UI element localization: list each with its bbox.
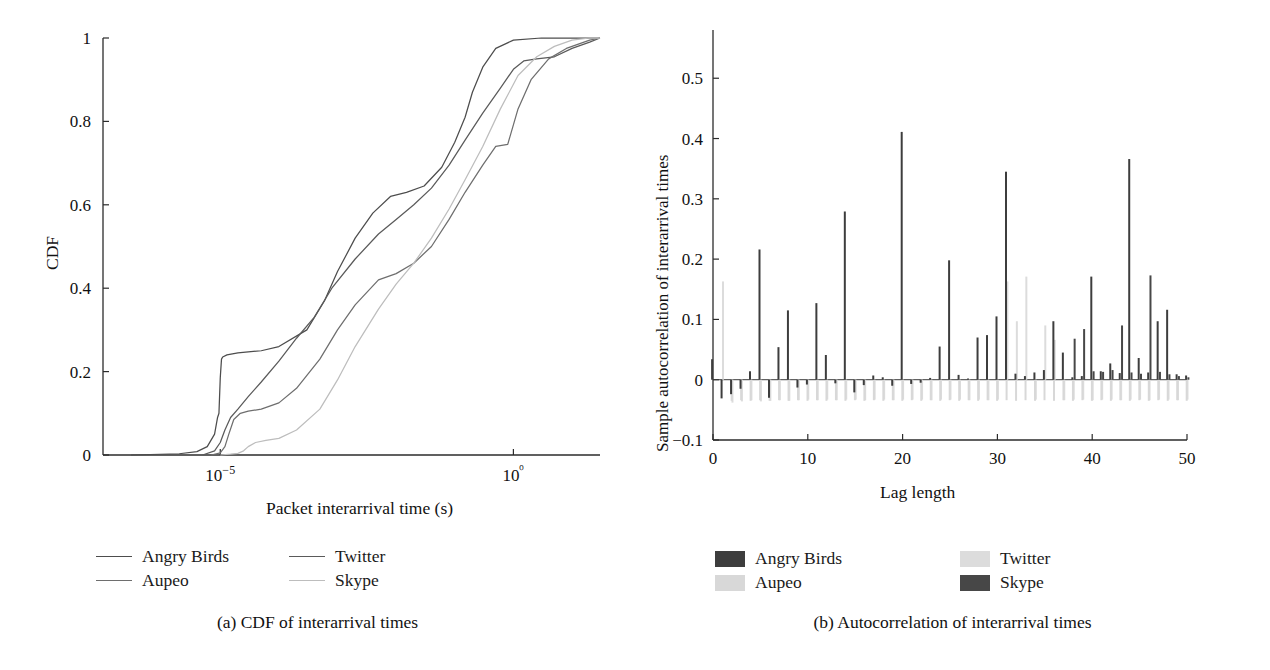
cdf-plot: 00.20.40.60.8110−510⁰ bbox=[0, 0, 635, 500]
acf-legend: Angry Birds Twitter Aupeo Skype bbox=[715, 548, 1050, 593]
legend-entry-angry-birds: Angry Birds bbox=[715, 548, 842, 569]
cdf-x-axis-title: Packet interarrival time (s) bbox=[266, 498, 453, 519]
caption-panel-b: (b) Autocorrelation of interarrival time… bbox=[635, 612, 1270, 633]
legend-label-angry-birds: Angry Birds bbox=[142, 546, 229, 567]
svg-text:10⁰: 10⁰ bbox=[502, 463, 524, 485]
legend-entry-aupeo: Aupeo bbox=[96, 570, 229, 591]
legend-label-aupeo: Aupeo bbox=[755, 572, 802, 593]
svg-text:20: 20 bbox=[894, 449, 911, 468]
svg-text:0.2: 0.2 bbox=[70, 363, 91, 382]
svg-text:0.6: 0.6 bbox=[70, 196, 91, 215]
legend-entry-skype: Skype bbox=[960, 572, 1050, 593]
svg-text:50: 50 bbox=[1179, 449, 1196, 468]
acf-plot: −0.100.10.20.30.40.501020304050 bbox=[635, 0, 1270, 500]
svg-text:0: 0 bbox=[709, 449, 718, 468]
legend-entry-aupeo: Aupeo bbox=[715, 572, 842, 593]
svg-text:0.5: 0.5 bbox=[682, 69, 703, 88]
legend-swatch-skype bbox=[960, 575, 990, 591]
svg-text:0.3: 0.3 bbox=[682, 190, 703, 209]
caption-panel-a: (a) CDF of interarrival times bbox=[0, 612, 635, 633]
svg-text:10−5: 10−5 bbox=[205, 463, 235, 485]
legend-line-twitter bbox=[289, 556, 325, 557]
legend-label-angry-birds: Angry Birds bbox=[755, 548, 842, 569]
legend-swatch-aupeo bbox=[715, 575, 745, 591]
svg-text:0.1: 0.1 bbox=[682, 310, 703, 329]
legend-line-angry-birds bbox=[96, 556, 132, 557]
legend-entry-skype: Skype bbox=[289, 570, 385, 591]
acf-y-axis-title: Sample autocorrelation of interarrival t… bbox=[653, 155, 673, 452]
svg-text:30: 30 bbox=[989, 449, 1006, 468]
legend-entry-twitter: Twitter bbox=[960, 548, 1050, 569]
svg-text:−0.1: −0.1 bbox=[672, 431, 703, 450]
svg-text:0.8: 0.8 bbox=[70, 112, 91, 131]
cdf-legend: Angry Birds Twitter Aupeo Skype bbox=[96, 546, 385, 591]
legend-label-aupeo: Aupeo bbox=[142, 570, 189, 591]
legend-label-skype: Skype bbox=[1000, 572, 1044, 593]
legend-label-skype: Skype bbox=[335, 570, 379, 591]
svg-text:1: 1 bbox=[83, 29, 92, 48]
svg-text:0.4: 0.4 bbox=[70, 279, 92, 298]
svg-text:40: 40 bbox=[1084, 449, 1101, 468]
panel-autocorrelation: Sample autocorrelation of interarrival t… bbox=[635, 0, 1270, 670]
legend-label-twitter: Twitter bbox=[1000, 548, 1050, 569]
legend-entry-angry-birds: Angry Birds bbox=[96, 546, 229, 567]
legend-swatch-twitter bbox=[960, 551, 990, 567]
legend-swatch-angry-birds bbox=[715, 551, 745, 567]
cdf-y-axis-title: CDF bbox=[42, 236, 63, 270]
svg-text:0.4: 0.4 bbox=[682, 130, 704, 149]
figure-row: CDF 00.20.40.60.8110−510⁰ Packet interar… bbox=[0, 0, 1270, 670]
svg-text:0: 0 bbox=[695, 371, 704, 390]
svg-text:0: 0 bbox=[83, 446, 92, 465]
legend-line-skype bbox=[289, 580, 325, 581]
legend-line-aupeo bbox=[96, 580, 132, 581]
legend-label-twitter: Twitter bbox=[335, 546, 385, 567]
acf-x-axis-title: Lag length bbox=[880, 482, 955, 503]
svg-text:10: 10 bbox=[799, 449, 816, 468]
panel-cdf: CDF 00.20.40.60.8110−510⁰ Packet interar… bbox=[0, 0, 635, 670]
svg-text:0.2: 0.2 bbox=[682, 250, 703, 269]
legend-entry-twitter: Twitter bbox=[289, 546, 385, 567]
